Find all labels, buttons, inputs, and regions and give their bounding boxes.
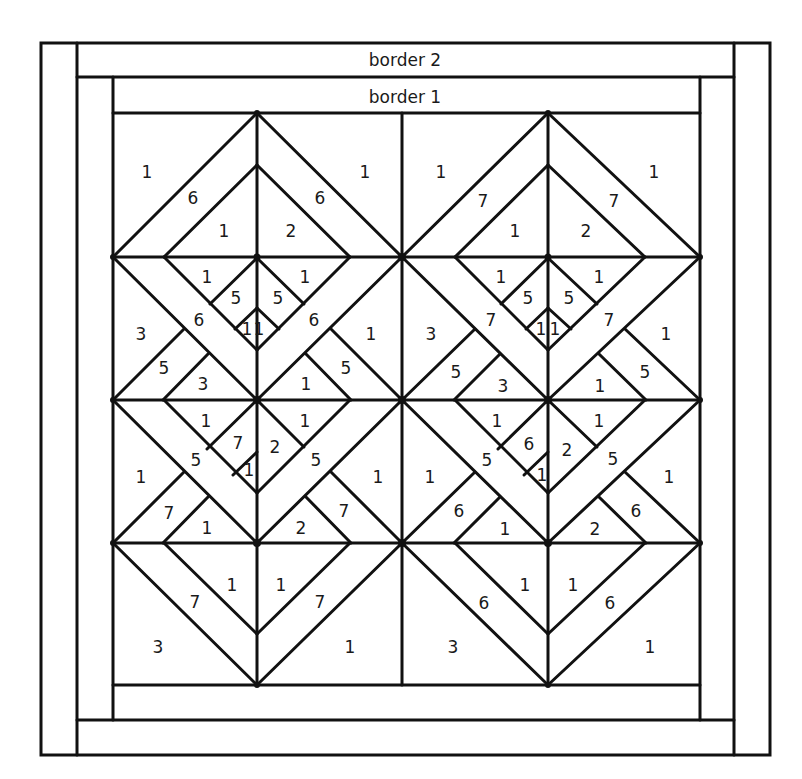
right-block-piece-number: 1 <box>594 269 605 286</box>
right-block-piece-number: 6 <box>605 595 616 612</box>
right-block-piece-number: 1 <box>496 269 507 286</box>
left-block-piece-number: 3 <box>153 639 164 656</box>
left-block-piece-number: 6 <box>188 190 199 207</box>
left-block-piece-number: 1 <box>142 164 153 181</box>
right-block-piece-number: 7 <box>478 193 489 210</box>
right-block-piece-number: 3 <box>498 378 509 395</box>
left-block-piece-number: 1 <box>219 223 230 240</box>
right-block-piece-number: 3 <box>426 326 437 343</box>
right-block-piece-number: 2 <box>581 223 592 240</box>
right-block-piece-number: 7 <box>486 312 497 329</box>
left-block-piece-number: 1 <box>276 577 287 594</box>
right-block-piece-number: 2 <box>562 442 573 459</box>
left-block-piece-number: 2 <box>286 223 297 240</box>
left-block-piece-number: 6 <box>315 190 326 207</box>
border-1-label: border 1 <box>369 89 441 106</box>
left-block-piece-number: 7 <box>190 594 201 611</box>
right-block-piece-number: 7 <box>609 193 620 210</box>
right-block-piece-number: 3 <box>448 639 459 656</box>
right-block-piece-number: 5 <box>640 364 651 381</box>
left-block-piece-number: 1 <box>373 469 384 486</box>
left-block-piece-number: 5 <box>191 452 202 469</box>
right-block-piece-number: 1 <box>500 521 511 538</box>
right-block-piece-number: 5 <box>564 290 575 307</box>
left-block-piece-number: 7 <box>315 594 326 611</box>
right-block-piece-number: 1 <box>520 577 531 594</box>
left-block-piece-number: 1 <box>136 469 147 486</box>
right-block-piece-number: 1 <box>550 321 561 338</box>
right-block-piece-number: 7 <box>604 312 615 329</box>
right-block-piece-number: 1 <box>492 413 503 430</box>
right-block-piece-number: 2 <box>590 521 601 538</box>
left-block-piece-number: 3 <box>198 376 209 393</box>
left-block-piece-number: 5 <box>231 290 242 307</box>
right-block-piece-number: 6 <box>631 503 642 520</box>
right-block-piece-number: 1 <box>649 164 660 181</box>
left-block-piece-number: 7 <box>233 435 244 452</box>
left-block-piece-number: 1 <box>202 520 213 537</box>
right-block-piece-number: 1 <box>425 469 436 486</box>
right-block-piece-number: 1 <box>568 577 579 594</box>
left-block-piece-number: 5 <box>159 360 170 377</box>
left-block-piece-number: 2 <box>296 520 307 537</box>
left-block-piece-number: 1 <box>227 577 238 594</box>
left-block-piece-number: 6 <box>194 312 205 329</box>
left-block-piece-number: 1 <box>254 321 265 338</box>
right-block-piece-number: 5 <box>523 290 534 307</box>
right-block-piece-number: 6 <box>454 503 465 520</box>
right-block-piece-number: 1 <box>537 467 548 484</box>
left-block-piece-number: 5 <box>341 360 352 377</box>
left-block-piece-number: 1 <box>301 376 312 393</box>
left-block-piece-number: 7 <box>164 505 175 522</box>
left-block-piece-number: 7 <box>339 503 350 520</box>
left-block-piece-number: 1 <box>242 321 253 338</box>
right-block-piece-number: 1 <box>436 164 447 181</box>
right-block-piece-number: 1 <box>664 469 675 486</box>
right-block-piece-number: 1 <box>661 326 672 343</box>
left-block-piece-number: 1 <box>360 164 371 181</box>
left-block-piece-number: 1 <box>244 462 255 479</box>
right-block-piece-number: 1 <box>536 321 547 338</box>
left-block-piece-number: 2 <box>270 439 281 456</box>
quilt-diagram <box>0 0 802 779</box>
right-block-piece-number: 1 <box>594 413 605 430</box>
left-block-piece-number: 1 <box>300 269 311 286</box>
right-block-piece-number: 6 <box>479 595 490 612</box>
left-block-piece-number: 5 <box>311 452 322 469</box>
right-block-piece-number: 5 <box>451 364 462 381</box>
left-block-piece-number: 1 <box>202 269 213 286</box>
left-block-piece-number: 1 <box>201 413 212 430</box>
left-block-piece-number: 6 <box>309 312 320 329</box>
left-block-piece-number: 1 <box>345 639 356 656</box>
left-block-piece-number: 1 <box>366 326 377 343</box>
right-block-piece-number: 5 <box>482 452 493 469</box>
border-2-label: border 2 <box>369 52 441 69</box>
right-block-piece-number: 1 <box>595 378 606 395</box>
left-block-piece-number: 5 <box>273 290 284 307</box>
right-block-piece-number: 5 <box>608 451 619 468</box>
right-block-piece-number: 1 <box>645 639 656 656</box>
right-block-piece-number: 6 <box>524 436 535 453</box>
left-block-piece-number: 3 <box>136 326 147 343</box>
right-block-piece-number: 1 <box>510 223 521 240</box>
left-block-piece-number: 1 <box>300 413 311 430</box>
